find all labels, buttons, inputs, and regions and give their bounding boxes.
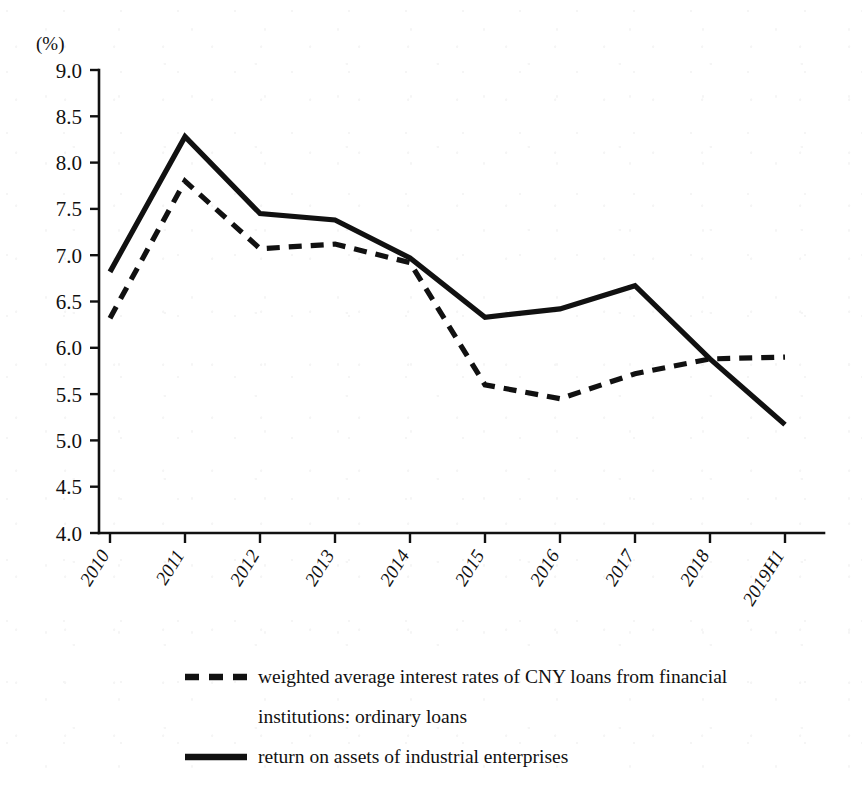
- y-tick-label: 5.5: [56, 383, 82, 407]
- y-axis-unit-label: (%): [36, 33, 64, 55]
- x-tick-label: 2019H1: [738, 546, 788, 609]
- x-tick-label: 2013: [300, 546, 338, 589]
- x-tick-label: 2017: [600, 545, 639, 590]
- x-axis: 2010201120122013201420152016201720182019…: [75, 533, 824, 609]
- chart-legend: weighted average interest rates of CNY l…: [185, 666, 728, 767]
- y-tick-label: 6.5: [56, 290, 82, 314]
- x-tick-label: 2018: [675, 546, 713, 590]
- y-tick-label: 8.5: [56, 105, 82, 129]
- legend-label: return on assets of industrial enterpris…: [258, 746, 568, 767]
- x-tick-label: 2012: [225, 546, 263, 590]
- y-tick-label: 9.0: [56, 59, 82, 83]
- y-axis: 4.04.55.05.56.06.57.07.58.08.59.0: [56, 59, 99, 546]
- y-tick-label: 5.0: [56, 429, 82, 453]
- y-tick-label: 6.0: [56, 336, 82, 360]
- x-tick-label: 2016: [525, 546, 563, 590]
- x-tick-label: 2010: [75, 546, 113, 590]
- y-tick-label: 7.5: [56, 197, 82, 221]
- y-tick-label: 4.5: [56, 475, 82, 499]
- x-tick-label: 2015: [450, 546, 488, 589]
- legend-label: weighted average interest rates of CNY l…: [258, 666, 728, 687]
- x-tick-label: 2014: [375, 546, 413, 590]
- y-tick-label: 4.0: [56, 522, 82, 546]
- series-plot-area: [110, 137, 785, 425]
- x-tick-label: 2011: [151, 546, 188, 588]
- series-line-return-on-assets: [110, 137, 785, 425]
- chart-figure: (%) 4.04.55.05.56.06.57.07.58.08.59.0 20…: [0, 0, 862, 786]
- y-tick-label: 7.0: [56, 244, 82, 268]
- line-chart-canvas: (%) 4.04.55.05.56.06.57.07.58.08.59.0 20…: [0, 0, 862, 786]
- legend-label-continued: institutions: ordinary loans: [258, 706, 467, 727]
- y-tick-label: 8.0: [56, 151, 82, 175]
